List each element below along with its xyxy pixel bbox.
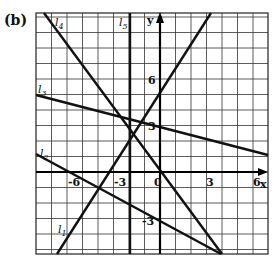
line-label-l4: l4: [55, 16, 64, 31]
tick-label: -6: [68, 176, 81, 189]
tick-label: 0: [154, 176, 162, 189]
tick-label: 6: [253, 176, 261, 189]
line-l2: [36, 154, 221, 254]
line-label-l3: l3: [38, 83, 47, 98]
line-label-l2: l2: [40, 147, 49, 162]
y-axis-label: y: [146, 14, 154, 27]
line-label-l1: l1: [58, 223, 67, 238]
tick-label: -3: [142, 215, 154, 228]
line-label-l5: l5: [119, 16, 128, 31]
tick-label: 3: [148, 120, 156, 133]
coordinate-plane: (b) x y -6-303663-3 l1l2l3l4l5: [0, 0, 280, 263]
tick-labels: -6-303663-3: [68, 74, 261, 228]
tick-label: -3: [114, 176, 126, 189]
x-axis-arrow-icon: [258, 168, 268, 176]
x-axis-label: x: [260, 178, 267, 191]
tick-label: 3: [206, 176, 214, 189]
part-label: (b): [4, 12, 27, 28]
line-l4: [44, 13, 222, 254]
tick-label: 6: [148, 74, 156, 87]
y-axis-arrow-icon: [156, 12, 164, 23]
